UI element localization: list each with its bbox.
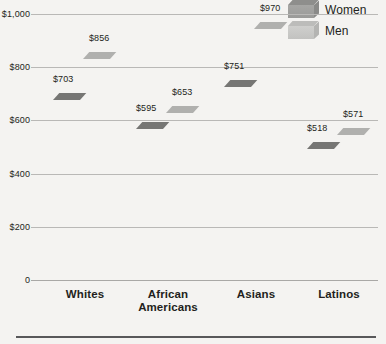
bar-value-label: $970: [260, 3, 280, 13]
y-axis-tick-label: $600: [0, 115, 30, 125]
gridline-0: [31, 280, 378, 281]
bar-women-african-americans: [136, 122, 163, 280]
bar-men-asians: [254, 22, 281, 280]
x-axis-category-label: Latinos: [295, 288, 383, 301]
x-axis-category-label: Asians: [212, 288, 300, 301]
y-axis-tick-label: $800: [0, 62, 30, 72]
y-axis-tick-label: 0: [0, 275, 30, 285]
y-axis-tick-label: $1,000: [0, 9, 30, 19]
bar-women-latinos: [307, 142, 334, 280]
bar-men-whites: [83, 52, 110, 280]
bar-women-asians: [224, 80, 251, 280]
bar-value-label: $751: [224, 61, 244, 71]
x-axis-category-label: Whites: [41, 288, 129, 301]
bar-value-label: $571: [343, 109, 363, 119]
bar-group: $595$653: [136, 14, 200, 280]
x-axis-category-label: AfricanAmericans: [124, 288, 212, 314]
bar-group: $703$856: [53, 14, 117, 280]
bar-value-label: $653: [172, 87, 192, 97]
bar-group: $751$970: [224, 14, 288, 280]
bar-group: $518$571: [307, 14, 371, 280]
y-axis-tick-label: $400: [0, 169, 30, 179]
bar-value-label: $703: [53, 74, 73, 84]
bar-value-label: $518: [307, 123, 327, 133]
bottom-rule: [16, 336, 376, 338]
bar-men-latinos: [337, 128, 364, 280]
bar-women-whites: [53, 93, 80, 280]
bar-value-label: $856: [89, 33, 109, 43]
bar-chart: Women Men 0$200$400$600$800$1,000$703$85…: [0, 0, 386, 344]
plot-area: 0$200$400$600$800$1,000$703$856Whites$59…: [53, 14, 378, 280]
y-axis-tick-label: $200: [0, 222, 30, 232]
bar-men-african-americans: [166, 106, 193, 280]
bar-value-label: $595: [136, 103, 156, 113]
